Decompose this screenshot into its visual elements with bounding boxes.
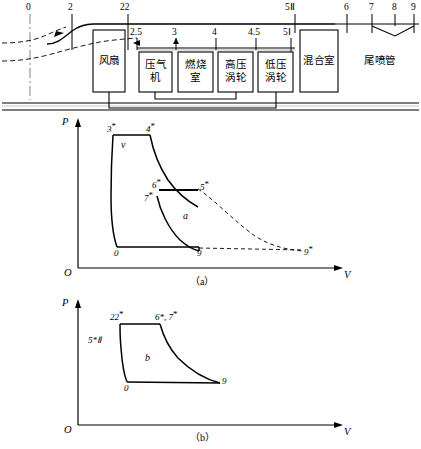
chart-b-region-label-b: b [145, 353, 150, 363]
chart-b-curve-0-to-22star [120, 324, 127, 382]
chart-b-line-0-to-9 [127, 382, 220, 383]
chart-b-point-22star: 22* [110, 310, 124, 322]
figure-root: 0 2 22 5Ⅱ 6 7 8 9 2.5 3 4 4.5 5Ⅰ 风扇 压气 机… [0, 0, 421, 449]
chart-b-y-arrow [75, 299, 81, 308]
chart-b-svg [0, 0, 421, 449]
chart-b-xlabel: V [344, 427, 350, 438]
chart-b-point-0: 0 [124, 384, 129, 393]
chart-b-point-9: 9 [222, 377, 227, 386]
chart-b-point-6star-7star: 6*, 7* [155, 310, 178, 322]
chart-b-curve-67star-to-9 [160, 324, 220, 383]
chart-b-point-5star-II: 5*Ⅱ [88, 336, 101, 345]
chart-b-ylabel: P [62, 298, 68, 309]
chart-b-caption: （b） [190, 433, 215, 443]
chart-b-x-arrow [334, 422, 343, 428]
chart-b-origin-label: O [64, 425, 72, 436]
